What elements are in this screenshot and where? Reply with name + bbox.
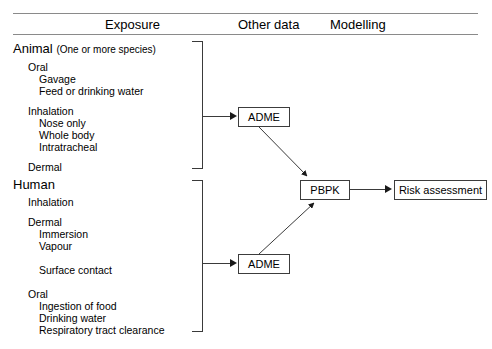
edge-pbpk-to-risk <box>350 189 388 190</box>
list-item: Vapour <box>39 240 72 252</box>
group-title-human-text: Human <box>13 177 55 192</box>
column-header-other-data: Other data <box>238 17 299 32</box>
edge-animal-to-adme <box>203 116 232 117</box>
group-title-human: Human <box>13 177 55 193</box>
header-rule-top <box>13 13 478 14</box>
list-item: Oral <box>28 288 48 300</box>
list-item: Surface contact <box>39 264 112 276</box>
list-item: Drinking water <box>39 312 106 324</box>
list-item: Inhalation <box>28 196 74 208</box>
column-header-exposure: Exposure <box>65 17 200 32</box>
group-title-animal: Animal (One or more species) <box>13 41 156 57</box>
bracket-human <box>192 180 203 332</box>
arrowhead-icon <box>230 112 237 120</box>
arrowhead-icon <box>230 259 237 267</box>
list-item: Nose only <box>39 117 86 129</box>
edge-human-to-adme <box>203 263 232 264</box>
list-item: Gavage <box>39 73 76 85</box>
list-item: Respiratory tract clearance <box>39 324 164 336</box>
arrowhead-icon <box>385 185 392 193</box>
figure-canvas: Exposure Other data Modelling Animal (On… <box>0 0 492 349</box>
list-item: Dermal <box>28 216 62 228</box>
node-adme-human[interactable]: ADME <box>238 254 290 274</box>
node-risk-assessment[interactable]: Risk assessment <box>394 180 487 200</box>
bracket-animal <box>192 41 203 169</box>
group-title-animal-text: Animal <box>13 41 53 56</box>
list-item: Intratracheal <box>39 141 97 153</box>
list-item: Feed or drinking water <box>39 85 143 97</box>
group-subtitle-animal: (One or more species) <box>56 44 155 55</box>
column-header-modelling: Modelling <box>330 17 386 32</box>
list-item: Dermal <box>28 161 62 173</box>
node-adme-animal[interactable]: ADME <box>238 107 290 127</box>
edge-adme-animal-to-pbpk <box>259 127 307 176</box>
list-item: Whole body <box>39 129 94 141</box>
edge-adme-human-to-pbpk <box>259 203 314 254</box>
header-rule-bottom <box>13 34 478 35</box>
list-item: Oral <box>28 61 48 73</box>
list-item: Ingestion of food <box>39 300 117 312</box>
list-item: Immersion <box>39 228 88 240</box>
list-item: Inhalation <box>28 105 74 117</box>
node-pbpk[interactable]: PBPK <box>300 180 350 200</box>
